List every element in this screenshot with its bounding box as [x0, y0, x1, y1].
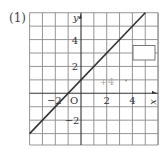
- y-axis-label: y: [72, 12, 79, 23]
- handwritten-annotation: +4: [99, 76, 114, 87]
- y-tick-label: 2: [72, 61, 78, 72]
- tick-labels: −22442−2O: [47, 35, 136, 127]
- x-tick-label: 4: [129, 95, 135, 106]
- annotation-dot: [125, 80, 127, 82]
- graph-line: [30, 13, 146, 134]
- y-tick-label: 4: [72, 35, 78, 46]
- grid-lines: [30, 13, 159, 145]
- y-tick-label: −2: [65, 115, 80, 126]
- x-tick-label: 2: [104, 95, 110, 106]
- line-y-equals-x-plus-1: [30, 13, 146, 134]
- axes: xy: [30, 12, 160, 145]
- answer-input-box[interactable]: [133, 46, 155, 61]
- origin-label: O: [70, 95, 78, 106]
- annotation: +4: [99, 76, 127, 87]
- x-axis-label: x: [149, 99, 160, 105]
- y-axis-arrow-icon: [79, 14, 82, 19]
- coordinate-graph: xy −22442−2O +4: [0, 0, 166, 149]
- x-tick-label: −2: [47, 95, 62, 106]
- answer-box[interactable]: [133, 46, 155, 61]
- x-axis-arrow-icon: [152, 91, 157, 94]
